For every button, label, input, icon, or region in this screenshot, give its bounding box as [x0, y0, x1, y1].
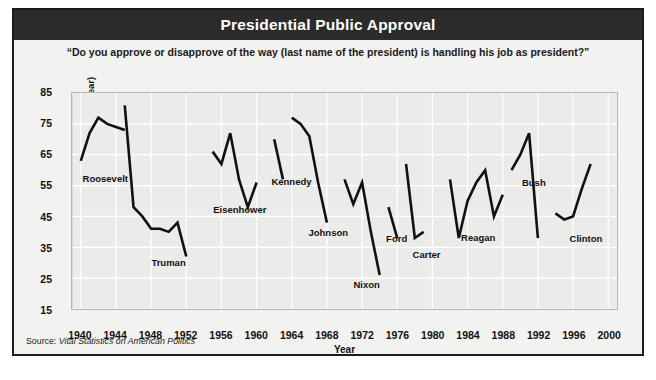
y-tick-label: 25: [40, 273, 52, 285]
source-note: Source: Vital Statistics on American Pol…: [26, 336, 195, 346]
x-tick-label: 1956: [209, 329, 232, 341]
chart-figure: Presidential Public Approval “Do you app…: [12, 8, 644, 356]
series-label-eisenhower: Eisenhower: [213, 204, 266, 215]
x-tick-label: 1980: [421, 329, 444, 341]
x-tick-label: 1964: [280, 329, 303, 341]
chart-title-bar: Presidential Public Approval: [14, 10, 642, 40]
x-tick-label: 1996: [562, 329, 585, 341]
y-tick-label: 45: [40, 211, 52, 223]
series-label-bush: Bush: [522, 177, 546, 188]
x-tick-label: 1992: [527, 329, 550, 341]
plot-canvas: RooseveltTrumanEisenhowerKennedyJohnsonN…: [71, 92, 618, 310]
x-tick-label: 1972: [350, 329, 373, 341]
page-title: Presidential Public Approval: [220, 16, 435, 34]
series-line-carter: [406, 164, 424, 238]
y-tick-label: 15: [40, 304, 52, 316]
series-label-kennedy: Kennedy: [271, 176, 311, 187]
chart-subtitle: “Do you approve or disapprove of the way…: [14, 46, 642, 58]
series-label-carter: Carter: [413, 249, 441, 260]
x-tick-label: 1988: [492, 329, 515, 341]
series-label-reagan: Reagan: [461, 232, 495, 243]
y-tick-label: 75: [40, 117, 52, 129]
source-title: Vital Statistics on American Politics: [59, 336, 195, 346]
x-tick-label: 1976: [386, 329, 409, 341]
series-label-truman: Truman: [151, 257, 185, 268]
series-label-clinton: Clinton: [570, 233, 603, 244]
series-label-nixon: Nixon: [353, 279, 379, 290]
series-line-kennedy: [274, 139, 283, 179]
series-label-roosevelt: Roosevelt: [83, 173, 128, 184]
x-tick-label: 1968: [315, 329, 338, 341]
source-prefix: Source:: [26, 336, 59, 346]
y-tick-label: 85: [40, 86, 52, 98]
y-tick-label: 35: [40, 242, 52, 254]
x-tick-label: 1960: [245, 329, 268, 341]
series-label-johnson: Johnson: [308, 227, 348, 238]
x-tick-label: 1984: [456, 329, 479, 341]
series-line-johnson: [292, 118, 327, 223]
series-label-ford: Ford: [386, 233, 407, 244]
y-tick-label: 65: [40, 148, 52, 160]
series-line-truman: [125, 105, 187, 256]
chart-svg: [72, 93, 617, 309]
series-line-eisenhower: [213, 133, 257, 207]
plot-area-wrapper: Percent (averaged by year) 1525354555657…: [57, 80, 632, 324]
series-line-reagan: [450, 170, 503, 238]
x-tick-label: 2000: [597, 329, 620, 341]
y-tick-label: 55: [40, 179, 52, 191]
